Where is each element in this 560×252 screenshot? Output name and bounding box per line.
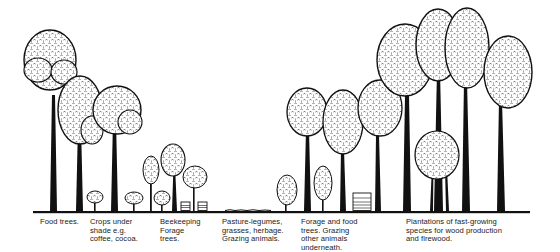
caption-forage-food: Forage and food trees. Grazing other ani…	[301, 218, 357, 252]
caption-plantations: Plantations of fast-growing species for …	[406, 218, 502, 244]
ground-line	[33, 210, 530, 213]
beehive-icon	[198, 202, 207, 211]
food-trees-group	[24, 30, 142, 211]
beekeeping-group	[143, 144, 207, 211]
pasture-group	[277, 175, 297, 211]
caption-beekeeping: Beekeeping Forage trees.	[160, 218, 201, 244]
feeder-box-icon	[353, 193, 371, 211]
caption-food-trees: Food trees.	[40, 218, 79, 227]
forage-food-trees-group	[287, 80, 402, 211]
caption-pasture: Pasture-legumes, grasses, herbage. Grazi…	[222, 218, 284, 244]
beehive-icon	[181, 202, 190, 211]
caption-crops-under-shade: Crops under shade e.g. coffee, cocoa.	[90, 218, 138, 244]
